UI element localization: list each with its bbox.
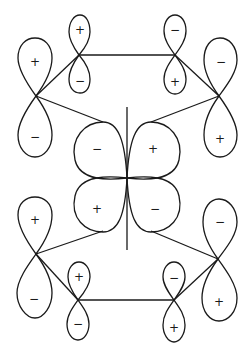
sign-upper: +: [30, 213, 40, 227]
sign-upper: +: [75, 23, 85, 37]
d-lobe-upper-left-sign: −: [92, 142, 102, 156]
p-orbital-bottom-right-outer: − +: [202, 199, 237, 321]
p-orbital-bottom-left-outer: + −: [17, 197, 52, 318]
p-orbital-bottom-left-inner: + −: [67, 262, 90, 340]
sign-lower: +: [169, 321, 179, 335]
sign-lower: −: [30, 130, 40, 144]
sign-upper: −: [169, 271, 179, 285]
p-orbital-top-right-outer: − +: [204, 38, 237, 157]
orbital-diagram-svg: − + + − + − + − − + − + + −: [0, 0, 250, 352]
sign-lower: +: [215, 132, 225, 146]
sign-lower: +: [214, 295, 224, 309]
sign-lower: −: [29, 292, 39, 306]
sign-lower: −: [73, 317, 83, 331]
p-orbital-top-left-inner: + −: [69, 15, 90, 93]
sign-upper: −: [170, 23, 180, 37]
orbital-diagram: − + + − + − + − − + − + + −: [0, 0, 250, 352]
d-lobe-lower-left-sign: +: [92, 202, 102, 216]
sign-lower: −: [75, 74, 85, 88]
sign-upper: −: [216, 55, 226, 69]
sign-upper: −: [215, 215, 225, 229]
d-lobe-lower-right-sign: −: [150, 202, 160, 216]
sign-upper: +: [74, 270, 84, 284]
p-orbital-bottom-right-inner: − +: [163, 262, 185, 342]
sign-lower: +: [170, 75, 180, 89]
p-orbital-top-left-outer: + −: [18, 38, 52, 157]
d-lobe-upper-right-sign: +: [148, 142, 158, 156]
sign-upper: +: [30, 55, 40, 69]
